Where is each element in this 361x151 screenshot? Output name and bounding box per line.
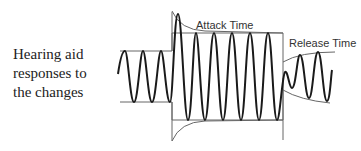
attack-time-label: Attack Time xyxy=(196,19,253,31)
release-envelope xyxy=(283,52,335,103)
release-time-label: Release Time xyxy=(289,37,356,49)
waveform-diagram: Attack Time Release Time xyxy=(0,0,361,151)
